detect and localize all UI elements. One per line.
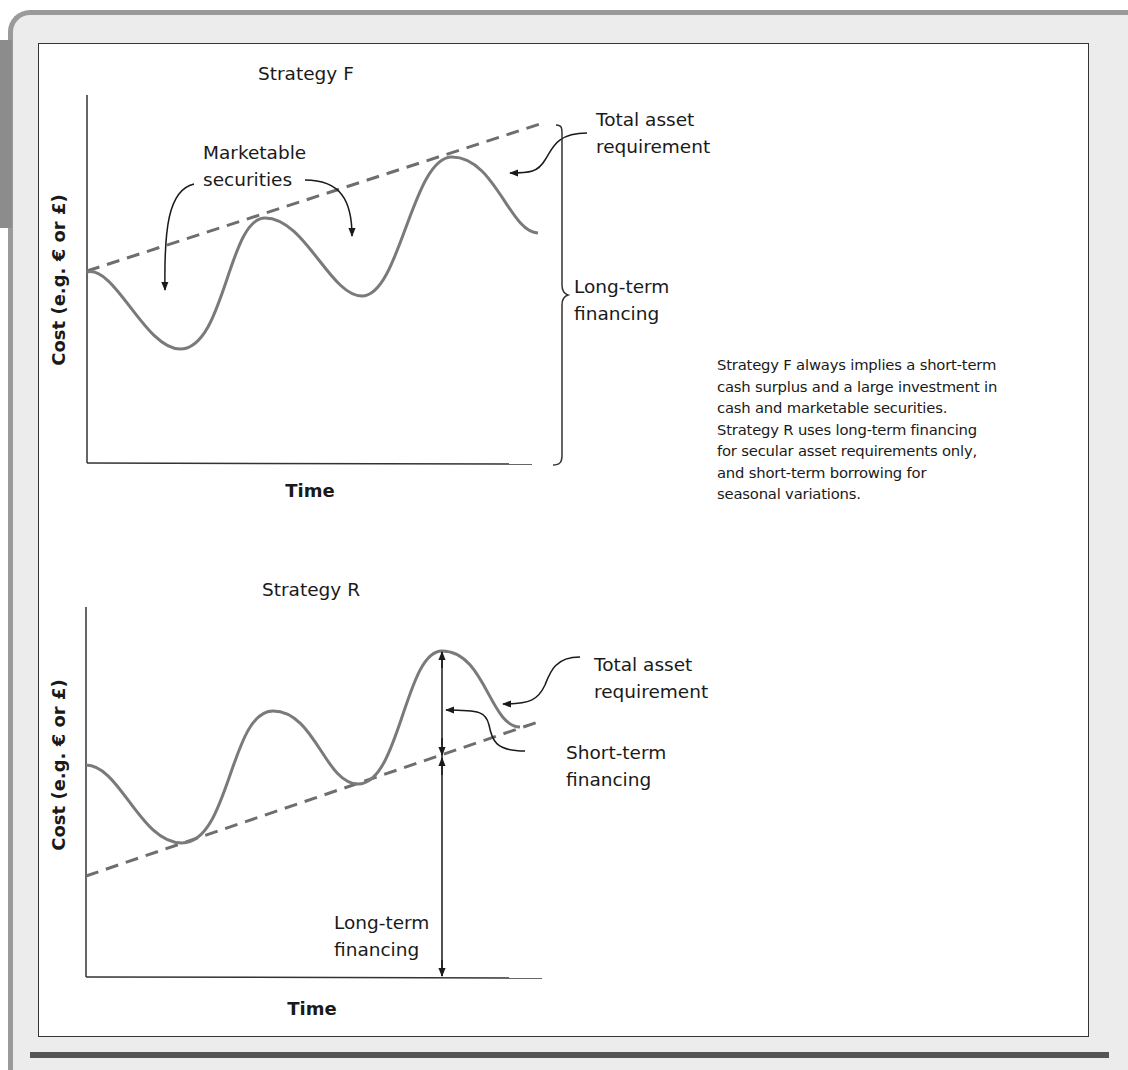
description-paragraph: Strategy F always implies a short-term c…: [717, 354, 1097, 505]
chart-title-f: Strategy F: [258, 63, 354, 84]
short-term-label-1: Short-term: [566, 742, 666, 763]
long-term-label-r-1: Long-term: [334, 912, 429, 933]
arrow-total-asset-f: [510, 133, 587, 173]
short-term-label-2: financing: [566, 769, 651, 790]
long-term-trend-line-r: [86, 722, 538, 876]
y-axis-label-r: Cost (e.g. € or £): [48, 679, 69, 850]
total-asset-curve-r: [86, 651, 520, 843]
chart-strategy-r: Strategy R Cost (e.g. € or £) Time Total…: [48, 579, 708, 1019]
x-axis-label-f: Time: [285, 480, 334, 501]
marketable-label-1: Marketable: [203, 142, 306, 163]
description-line: cash surplus and a large investment in: [717, 376, 1097, 398]
long-term-brace-f: [553, 125, 568, 465]
total-asset-label-f-1: Total asset: [595, 109, 694, 130]
description-line: Strategy R uses long-term financing: [717, 419, 1097, 441]
total-asset-label-r-2: requirement: [594, 681, 708, 702]
total-asset-curve-f: [87, 157, 538, 349]
description-line: Strategy F always implies a short-term: [717, 354, 1097, 376]
x-axis-r: [86, 977, 542, 978]
description-line: seasonal variations.: [717, 483, 1097, 505]
x-axis-f: [87, 463, 532, 464]
x-axis-label-r: Time: [287, 998, 336, 1019]
chart-strategy-f: Strategy F Cost (e.g. € or £) Time Marke…: [48, 63, 710, 501]
total-asset-label-r-1: Total asset: [593, 654, 692, 675]
long-term-trend-line-f: [87, 124, 540, 271]
long-term-label-f-1: Long-term: [574, 276, 669, 297]
chart-title-r: Strategy R: [262, 579, 360, 600]
description-line: for secular asset requirements only,: [717, 440, 1097, 462]
marketable-label-2: securities: [203, 169, 292, 190]
arrow-marketable-right: [305, 180, 352, 236]
description-line: and short-term borrowing for: [717, 462, 1097, 484]
y-axis-label-f: Cost (e.g. € or £): [48, 194, 69, 365]
total-asset-label-f-2: requirement: [596, 136, 710, 157]
long-term-label-f-2: financing: [574, 303, 659, 324]
long-term-label-r-2: financing: [334, 939, 419, 960]
description-line: cash and marketable securities.: [717, 397, 1097, 419]
arrow-total-asset-r: [503, 657, 580, 704]
